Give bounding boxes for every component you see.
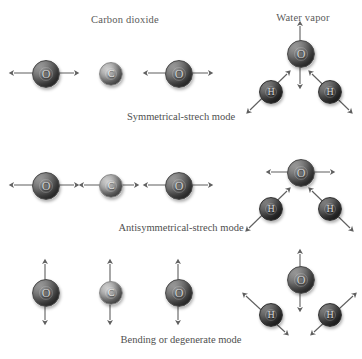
atom-label: O [297,167,306,179]
atom-oxygen: O [287,266,315,294]
atom-label: H [267,310,274,320]
atom-oxygen: O [32,172,60,200]
atom-oxygen: O [165,279,193,307]
atom-oxygen: O [165,60,193,88]
atom-hydrogen: H [318,197,342,221]
atom-hydrogen: H [259,303,283,327]
atom-oxygen: O [32,279,60,307]
atom-label: O [175,180,184,192]
vibration-modes-figure: Carbon dioxideWater vapor Symmetrical-st… [0,0,362,359]
atom-oxygen: O [287,40,315,68]
atom-label: H [326,204,333,214]
atom-label: O [42,287,51,299]
atom-label: O [175,287,184,299]
atom-hydrogen: H [318,80,342,104]
atom-label: C [108,69,115,79]
atom-oxygen: O [287,159,315,187]
atom-label: O [297,48,306,60]
atom-carbon: C [99,281,123,305]
atom-hydrogen: H [259,197,283,221]
atom-label: H [267,204,274,214]
atom-label: O [297,274,306,286]
atom-oxygen: O [165,172,193,200]
atom-label: O [175,68,184,80]
atom-label: H [267,87,274,97]
atom-hydrogen: H [259,80,283,104]
atom-label: C [108,181,115,191]
atom-label: C [108,288,115,298]
atom-label: H [326,310,333,320]
atom-carbon: C [99,174,123,198]
atom-hydrogen: H [318,303,342,327]
atom-label: O [42,180,51,192]
atom-label: H [326,87,333,97]
atom-label: O [42,68,51,80]
atom-carbon: C [99,62,123,86]
atom-oxygen: O [32,60,60,88]
